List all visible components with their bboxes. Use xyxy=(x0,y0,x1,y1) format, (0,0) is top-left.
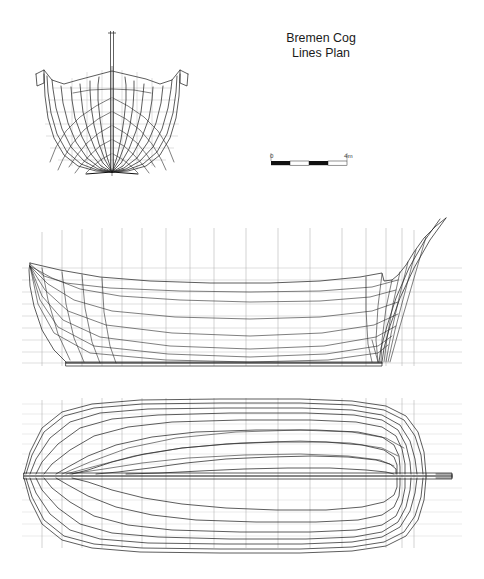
sheer-station-proj-2 xyxy=(62,272,84,362)
half-breadth-wl-upper-2 xyxy=(26,403,423,474)
scale-segment-3 xyxy=(309,161,328,165)
scale-segment-4 xyxy=(328,161,347,165)
sheer-station-proj-5 xyxy=(366,277,372,362)
sheer-line xyxy=(30,218,446,283)
title-line-2: Lines Plan xyxy=(292,46,350,60)
lines-plan-sheet: Bremen Cog Lines Plan 0 4m xyxy=(0,0,484,579)
scale-segment-1 xyxy=(271,161,290,165)
scale-segment-2 xyxy=(290,161,309,165)
half-breadth-wl-lower-7 xyxy=(72,478,397,510)
half-breadth-wl-upper-5 xyxy=(44,420,405,474)
sheer-station-proj-4 xyxy=(102,278,116,363)
scale-label-start: 0 xyxy=(270,152,274,159)
sternpost-inner xyxy=(379,219,440,362)
body-plan-view xyxy=(36,31,188,176)
body-plan-station-a5 xyxy=(71,87,112,172)
half-breadth-plan-view xyxy=(22,398,462,553)
title-block: Bremen Cog Lines Plan xyxy=(286,31,356,60)
sheer-station-proj-9 xyxy=(386,262,408,362)
sheer-plan-view xyxy=(22,218,462,366)
lines-plan-drawing: Bremen Cog Lines Plan 0 4m xyxy=(0,0,484,579)
scale-label-end: 4m xyxy=(344,152,353,159)
half-breadth-wl-upper-6 xyxy=(56,430,400,474)
title-line-1: Bremen Cog xyxy=(286,31,356,45)
body-plan-station-f5 xyxy=(112,87,153,172)
half-breadth-wl-lower-2 xyxy=(26,478,423,549)
sheer-plan-stations xyxy=(42,228,414,366)
sheer-buttock-1 xyxy=(30,266,396,302)
scale-bar: 0 4m xyxy=(270,152,353,165)
